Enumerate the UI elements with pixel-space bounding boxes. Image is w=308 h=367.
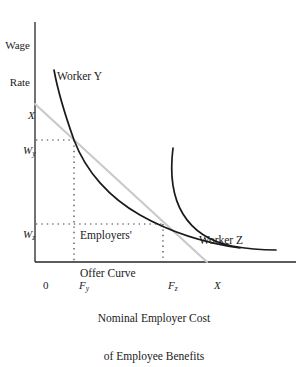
worker-z-label: Worker Z — [199, 234, 243, 247]
worker-y-label: Worker Y — [57, 70, 102, 83]
x-axis-title-line1: Nominal Employer Cost — [0, 312, 308, 325]
y-tick-x-base: X — [28, 109, 35, 121]
y-tick-wz-sub: z — [32, 233, 35, 242]
offer-curve-label-line2: Offer Curve — [80, 267, 136, 280]
y-tick-wy-base: W — [23, 144, 32, 156]
y-tick-label-x: X — [17, 97, 35, 134]
y-tick-wz-base: W — [23, 228, 32, 240]
y-tick-label-wz: Wz — [12, 216, 35, 253]
y-tick-label-wy: Wy — [12, 132, 36, 169]
y-axis-title-line2: Rate — [0, 76, 30, 88]
y-axis-title-line1: Wage — [0, 39, 30, 51]
x-axis-title-line2: of Employee Benefits — [0, 350, 308, 363]
y-tick-wy-sub: y — [32, 149, 35, 158]
x-axis-title: Nominal Employer Cost of Employee Benefi… — [0, 286, 308, 367]
offer-curve-label-line1: Employers' — [80, 229, 136, 242]
